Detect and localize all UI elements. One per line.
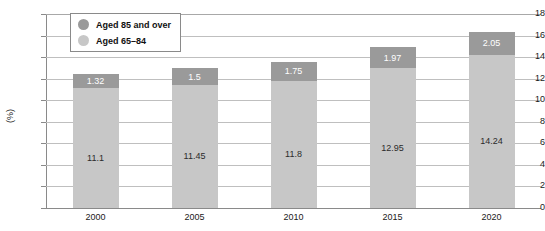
bar-segment-aged-85-and-over[interactable]: 1.97: [370, 47, 416, 68]
legend-label: Aged 85 and over: [96, 20, 171, 30]
bar-value-label: 2.05: [483, 38, 501, 48]
bar-value-label: 14.24: [480, 136, 503, 146]
bar-segment-aged-85-and-over[interactable]: 1.75: [271, 62, 317, 81]
bar-value-label: 1.75: [285, 66, 303, 76]
bar-group[interactable]: 1.9712.95: [370, 47, 416, 208]
bar-segment-aged-65-84[interactable]: 11.1: [73, 88, 119, 208]
bar-group[interactable]: 2.0514.24: [469, 32, 515, 208]
bar-value-label: 11.1: [87, 153, 104, 163]
x-tick-label: 2010: [254, 212, 334, 222]
legend-item-aged-85-and-over[interactable]: Aged 85 and over: [78, 19, 171, 30]
legend-swatch-icon: [78, 19, 89, 30]
stacked-bar-chart: (%) 181614121086420 1.3211.11.511.451.75…: [0, 0, 545, 231]
y-axis-title: (%): [5, 109, 15, 123]
bar-segment-aged-65-84[interactable]: 12.95: [370, 68, 416, 208]
legend-item-aged-65-84[interactable]: Aged 65–84: [78, 35, 171, 46]
bar-group[interactable]: 1.7511.8: [271, 62, 317, 208]
bar-segment-aged-65-84[interactable]: 11.8: [271, 81, 317, 208]
bar-value-label: 11.45: [184, 151, 206, 161]
bar-value-label: 11.8: [285, 149, 302, 159]
bar-segment-aged-65-84[interactable]: 11.45: [172, 85, 218, 208]
x-tick-label: 2015: [353, 212, 433, 222]
bar-group[interactable]: 1.3211.1: [73, 74, 119, 208]
x-tick-label: 2020: [452, 212, 532, 222]
bar-value-label: 1.32: [87, 76, 105, 86]
bar-value-label: 1.97: [384, 53, 402, 63]
x-axis-line: [46, 208, 541, 209]
legend: Aged 85 and over Aged 65–84: [70, 13, 181, 52]
x-tick-label: 2000: [56, 212, 136, 222]
bar-segment-aged-85-and-over[interactable]: 1.5: [172, 68, 218, 84]
y-tick-mark: [41, 208, 46, 209]
bar-segment-aged-65-84[interactable]: 14.24: [469, 55, 515, 208]
bar-value-label: 12.95: [381, 143, 404, 153]
bar-segment-aged-85-and-over[interactable]: 1.32: [73, 74, 119, 88]
legend-label: Aged 65–84: [96, 36, 146, 46]
bar-value-label: 1.5: [188, 72, 201, 82]
x-tick-label: 2005: [155, 212, 235, 222]
bar-group[interactable]: 1.511.45: [172, 68, 218, 208]
bar-segment-aged-85-and-over[interactable]: 2.05: [469, 32, 515, 54]
legend-swatch-icon: [78, 35, 89, 46]
